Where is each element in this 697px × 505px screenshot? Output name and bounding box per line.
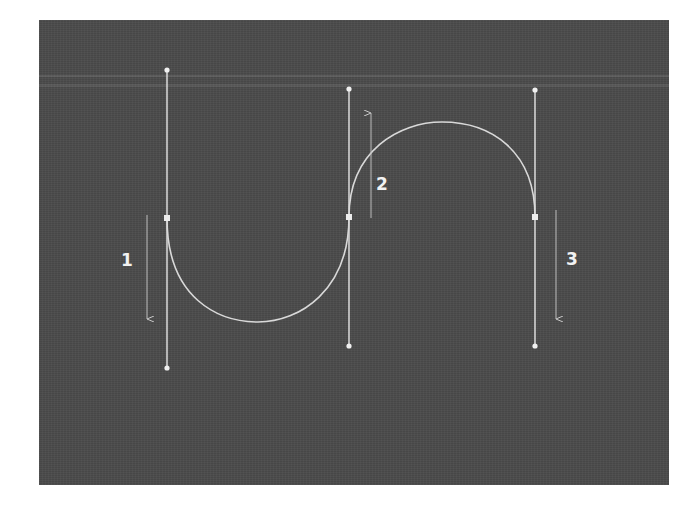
handle-endpoint-bottom-3 (532, 343, 537, 348)
step-label-3: 3 (566, 251, 578, 268)
handle-endpoint-top-1 (164, 67, 169, 72)
anchor-point-1[interactable] (164, 215, 170, 221)
handle-endpoint-top-2 (346, 86, 351, 91)
handle-endpoint-top-3 (532, 87, 537, 92)
step-label-1: 1 (121, 252, 133, 269)
bezier-curve[interactable] (167, 122, 535, 322)
handle-endpoint-bottom-1 (164, 365, 169, 370)
step-label-2: 2 (376, 176, 388, 193)
anchor-point-3[interactable] (532, 214, 538, 220)
anchor-point-2[interactable] (346, 214, 352, 220)
handle-endpoint-bottom-2 (346, 343, 351, 348)
bezier-diagram (0, 0, 697, 505)
